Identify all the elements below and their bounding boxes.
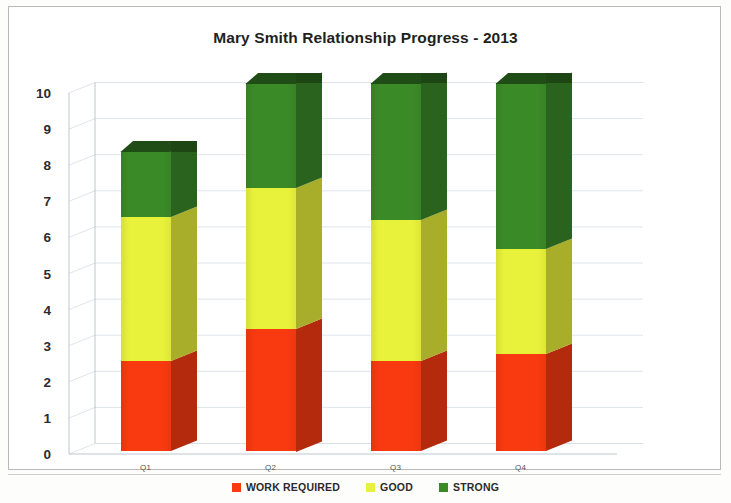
y-axis-tick: 5 [17, 266, 51, 281]
bar-segment [121, 361, 171, 451]
y-axis-tick: 8 [17, 158, 51, 173]
x-axis-tick: Q4 [515, 463, 526, 472]
legend-divider [8, 474, 721, 475]
y-axis-tick: 2 [17, 374, 51, 389]
y-axis-tick: 3 [17, 338, 51, 353]
bar-top-cap [246, 73, 296, 84]
bar-segment [371, 220, 421, 361]
bar-top-cap-right [296, 73, 322, 84]
bar-segment-front [371, 361, 421, 451]
bar-top-cap-right [171, 141, 197, 152]
bar-segment [246, 188, 296, 329]
bar-segment [121, 217, 171, 361]
legend-label: WORK REQUIRED [246, 481, 340, 493]
legend-item[interactable]: WORK REQUIRED [232, 481, 340, 493]
bar-segment-side [296, 73, 322, 188]
chart-screenshot: Mary Smith Relationship Progress - 2013 … [0, 0, 731, 503]
bar-segment [246, 83, 296, 188]
bar-segment-side [421, 351, 447, 452]
bar-segment-front [246, 188, 296, 329]
bar-segment-front [121, 217, 171, 361]
legend-item[interactable]: GOOD [366, 481, 413, 493]
bar-segment-front [246, 83, 296, 188]
bar-top-cap-right [546, 73, 572, 84]
y-axis-tick: 0 [17, 447, 51, 462]
gridlines [9, 7, 722, 471]
legend-label: GOOD [380, 481, 413, 493]
y-axis-tick: 7 [17, 194, 51, 209]
bar-segment-front [496, 249, 546, 354]
bar-segment-side [546, 73, 572, 250]
bar-segment [371, 361, 421, 451]
bar-segment [496, 354, 546, 451]
x-axis-tick: Q3 [390, 463, 401, 472]
plot-area: 109876543210 Q1Q2Q3Q4 [9, 7, 722, 471]
bar-segment-side [421, 73, 447, 221]
bar-segment-front [371, 83, 421, 220]
bar-segment-side [296, 177, 322, 328]
bar-top-cap [496, 73, 546, 84]
y-axis-tick: 4 [17, 302, 51, 317]
legend-label: STRONG [453, 481, 499, 493]
bar-segment-front [371, 220, 421, 361]
y-axis-labels: 109876543210 [17, 7, 51, 471]
bar-segment-side [546, 343, 572, 451]
legend-swatch-icon [232, 483, 241, 492]
bar-segment-side [296, 318, 322, 451]
bar-segment [496, 249, 546, 354]
x-axis-tick: Q1 [140, 463, 151, 472]
bar-segment-side [171, 141, 197, 216]
bar-segment-front [121, 152, 171, 217]
bar-segment-side [171, 351, 197, 452]
y-axis-tick: 10 [17, 86, 51, 101]
y-axis-tick: 6 [17, 230, 51, 245]
bar-segment-side [421, 210, 447, 361]
bar-segment [246, 329, 296, 452]
bar-segment-side [546, 239, 572, 354]
bar-top-cap [121, 141, 171, 152]
legend-swatch-icon [366, 483, 375, 492]
bar-segment-front [496, 354, 546, 451]
bar-segment-front [246, 329, 296, 452]
y-axis-tick: 1 [17, 410, 51, 425]
bar-segment-side [171, 206, 197, 361]
y-axis-tick: 9 [17, 122, 51, 137]
bar-top-cap-right [421, 73, 447, 84]
bar-segment-front [121, 361, 171, 451]
chart-frame: Mary Smith Relationship Progress - 2013 … [8, 6, 721, 470]
bar-segment-front [496, 83, 546, 249]
bar-segment [371, 83, 421, 220]
chart-legend: WORK REQUIREDGOODSTRONG [0, 481, 731, 493]
legend-swatch-icon [439, 483, 448, 492]
bar-segment [496, 83, 546, 249]
bar-segment [121, 152, 171, 217]
bar-top-cap [371, 73, 421, 84]
x-axis-tick: Q2 [265, 463, 276, 472]
legend-item[interactable]: STRONG [439, 481, 499, 493]
